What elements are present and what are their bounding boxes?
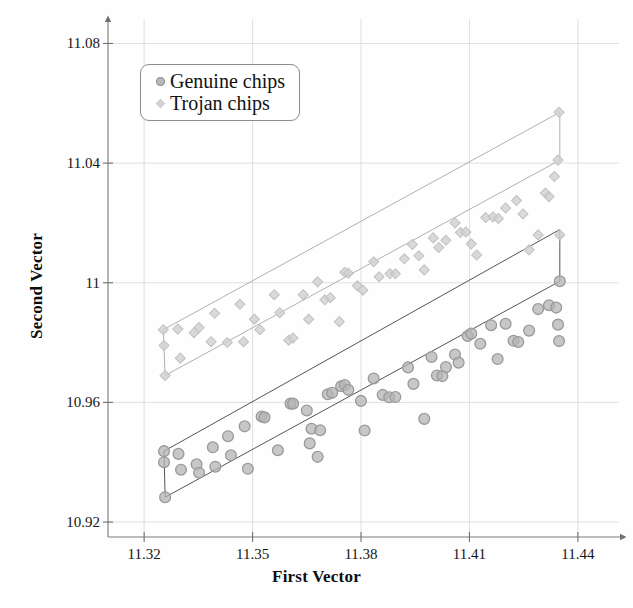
legend-label-genuine: Genuine chips (170, 70, 285, 92)
data-point (269, 290, 279, 300)
data-point (176, 464, 187, 475)
data-point (160, 370, 170, 380)
data-point (399, 254, 409, 264)
data-point (553, 319, 564, 330)
data-point (426, 352, 437, 363)
data-point (533, 230, 543, 240)
y-axis-title: Second Vector (27, 206, 47, 366)
data-point (242, 463, 253, 474)
data-point (304, 314, 314, 324)
data-point (206, 337, 216, 347)
data-point (475, 338, 486, 349)
x-tick-label: 11.44 (561, 546, 594, 563)
data-point (315, 425, 326, 436)
data-point (441, 362, 452, 373)
data-point (533, 304, 544, 315)
data-point (159, 341, 169, 351)
data-point (239, 421, 250, 432)
x-axis-title: First Vector (0, 567, 633, 587)
data-point (553, 155, 563, 165)
data-point (159, 446, 170, 457)
data-point (441, 235, 451, 245)
data-point (194, 467, 205, 478)
data-point (554, 336, 565, 347)
data-point (472, 250, 482, 260)
legend-item-genuine: Genuine chips (150, 70, 285, 92)
data-point (207, 442, 218, 453)
data-point (428, 233, 438, 243)
data-point (407, 239, 417, 249)
data-point (374, 272, 384, 282)
data-point (175, 353, 185, 363)
x-tick-label: 11.35 (236, 546, 269, 563)
data-point (158, 325, 168, 335)
data-point (500, 318, 511, 329)
data-point (249, 314, 259, 324)
legend-label-trojan: Trojan chips (170, 92, 270, 114)
data-point (403, 362, 414, 373)
data-point (549, 172, 559, 182)
data-point (524, 245, 534, 255)
x-tick-label: 11.32 (128, 546, 161, 563)
data-point (343, 384, 354, 395)
data-point (524, 325, 535, 336)
data-point (210, 461, 221, 472)
data-point (414, 251, 424, 261)
data-point (554, 276, 565, 287)
data-point (275, 308, 285, 318)
data-point (518, 209, 528, 219)
data-point (235, 299, 245, 309)
data-point (466, 328, 477, 339)
data-point (453, 357, 464, 368)
hull-outlines (163, 112, 560, 497)
y-tick-label: 11.04 (20, 155, 100, 172)
data-point (239, 337, 249, 347)
data-point (501, 203, 511, 213)
data-point (513, 337, 524, 348)
data-point (551, 302, 562, 313)
data-point (304, 438, 315, 449)
data-point (466, 239, 476, 249)
data-point (368, 373, 379, 384)
data-point (259, 412, 270, 423)
data-point (390, 392, 401, 403)
data-point (159, 457, 170, 468)
legend-item-trojan: Trojan chips (150, 92, 285, 114)
data-point (222, 338, 232, 348)
series-trojan-chips (158, 107, 565, 380)
data-point (160, 492, 171, 503)
data-point (486, 320, 497, 331)
circle-marker-icon (150, 76, 170, 87)
data-point (369, 257, 379, 267)
data-point (301, 405, 312, 416)
data-point (356, 396, 367, 407)
data-point (419, 265, 429, 275)
data-point (225, 450, 236, 461)
chart-legend: Genuine chips Trojan chips (140, 64, 300, 121)
data-point (272, 445, 283, 456)
data-point (173, 448, 184, 459)
data-point (419, 413, 430, 424)
data-point (359, 425, 370, 436)
data-point (313, 277, 323, 287)
data-point (408, 378, 419, 389)
x-tick-label: 11.38 (344, 546, 377, 563)
diamond-marker-icon (150, 98, 170, 109)
scatter-plot-figure: 10.9210.961111.0411.0811.3211.3511.3811.… (0, 0, 633, 608)
data-point (434, 242, 444, 252)
data-point (173, 324, 183, 334)
data-point (511, 196, 521, 206)
y-tick-label: 11.08 (20, 35, 100, 52)
y-tick-label: 10.96 (20, 394, 100, 411)
data-point (288, 398, 299, 409)
data-point (554, 107, 564, 117)
data-point (223, 431, 234, 442)
data-point (210, 308, 220, 318)
y-tick-label: 10.92 (20, 514, 100, 531)
data-point (312, 451, 323, 462)
data-point (334, 317, 344, 327)
x-tick-label: 11.41 (453, 546, 486, 563)
data-point (492, 354, 503, 365)
